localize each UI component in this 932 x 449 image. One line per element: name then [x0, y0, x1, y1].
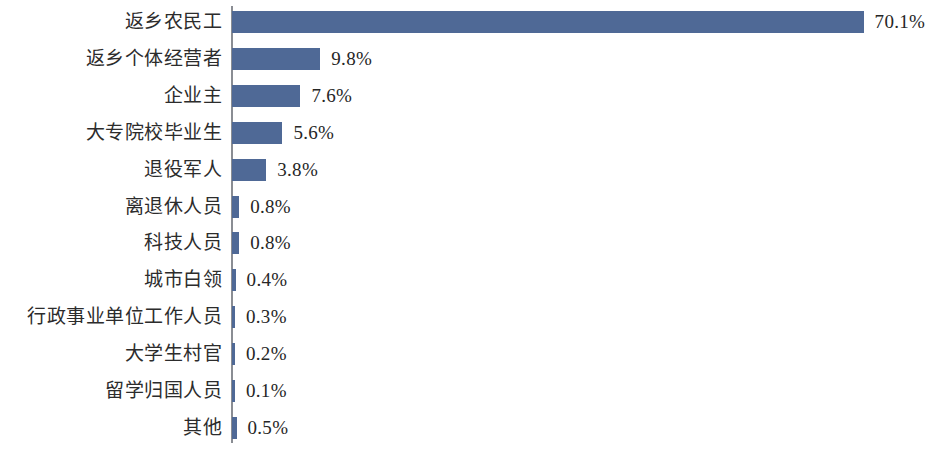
bar-value-label: 3.8% [277, 159, 318, 181]
category-label: 城市白领 [0, 269, 222, 291]
category-label: 科技人员 [0, 232, 222, 254]
bar-chart: 返乡农民工70.1%返乡个体经营者9.8%企业主7.6%大专院校毕业生5.6%退… [0, 0, 932, 449]
bar-and-value: 3.8% [232, 159, 318, 181]
bar [232, 306, 235, 328]
bar-and-value: 7.6% [232, 85, 352, 107]
bar-rows-container: 返乡农民工70.1%返乡个体经营者9.8%企业主7.6%大专院校毕业生5.6%退… [0, 0, 932, 449]
bar-and-value: 0.2% [232, 343, 287, 365]
category-label: 企业主 [0, 85, 222, 107]
bar-and-value: 0.8% [232, 196, 291, 218]
category-label: 行政事业单位工作人员 [0, 306, 222, 328]
bar-and-value: 0.4% [232, 269, 287, 291]
bar [232, 85, 300, 107]
bar-value-label: 7.6% [311, 85, 352, 107]
bar-and-value: 9.8% [232, 48, 372, 70]
bar-value-label: 0.4% [247, 269, 288, 291]
bar [232, 232, 239, 254]
bar-and-value: 0.1% [232, 380, 287, 402]
bar [232, 343, 235, 365]
bar-value-label: 0.5% [248, 417, 289, 439]
category-label: 留学归国人员 [0, 380, 222, 402]
bar [232, 196, 239, 218]
category-label: 其他 [0, 417, 222, 439]
category-label: 离退休人员 [0, 196, 222, 218]
bar [232, 417, 237, 439]
bar-value-label: 5.6% [293, 122, 334, 144]
bar-and-value: 70.1% [232, 11, 925, 33]
bar [232, 380, 235, 402]
bar-and-value: 0.5% [232, 417, 288, 439]
bar-row: 返乡个体经营者9.8% [0, 40, 932, 77]
category-label: 返乡农民工 [0, 11, 222, 33]
bar-value-label: 0.8% [250, 232, 291, 254]
bar-value-label: 9.8% [331, 48, 372, 70]
bar [232, 11, 864, 33]
bar [232, 159, 266, 181]
bar-row: 城市白领0.4% [0, 262, 932, 299]
bar-and-value: 5.6% [232, 122, 334, 144]
bar-value-label: 0.2% [246, 343, 287, 365]
bar-row: 退役军人3.8% [0, 151, 932, 188]
category-label: 退役军人 [0, 159, 222, 181]
bar-row: 企业主7.6% [0, 77, 932, 114]
bar-value-label: 0.1% [246, 380, 287, 402]
bar-value-label: 0.3% [246, 306, 287, 328]
category-label: 返乡个体经营者 [0, 48, 222, 70]
category-label: 大专院校毕业生 [0, 122, 222, 144]
bar-and-value: 0.8% [232, 232, 291, 254]
bar-row: 离退休人员0.8% [0, 188, 932, 225]
bar [232, 122, 282, 144]
bar-row: 大学生村官0.2% [0, 336, 932, 373]
bar-value-label: 0.8% [250, 196, 291, 218]
bar [232, 48, 320, 70]
category-label: 大学生村官 [0, 343, 222, 365]
bar-row: 科技人员0.8% [0, 225, 932, 262]
bar-value-label: 70.1% [875, 11, 926, 33]
bar-row: 返乡农民工70.1% [0, 4, 932, 41]
bar-row: 其他0.5% [0, 409, 932, 446]
bar-row: 行政事业单位工作人员0.3% [0, 299, 932, 336]
bar [232, 269, 236, 291]
bar-row: 大专院校毕业生5.6% [0, 114, 932, 151]
bar-row: 留学归国人员0.1% [0, 373, 932, 410]
bar-and-value: 0.3% [232, 306, 287, 328]
